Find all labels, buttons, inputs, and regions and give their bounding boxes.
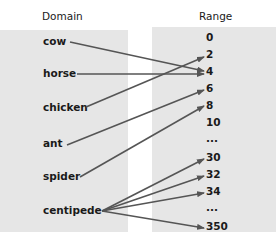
arrow-spider-8 xyxy=(80,106,204,177)
arrow-cow-4 xyxy=(70,42,204,71)
arrow-centipede-32 xyxy=(102,176,204,211)
mapping-arrows xyxy=(0,0,278,246)
arrow-centipede-30 xyxy=(102,159,204,211)
arrow-centipede-350 xyxy=(102,211,204,228)
arrow-centipede-34 xyxy=(102,193,204,211)
arrow-chicken-2 xyxy=(86,57,204,107)
